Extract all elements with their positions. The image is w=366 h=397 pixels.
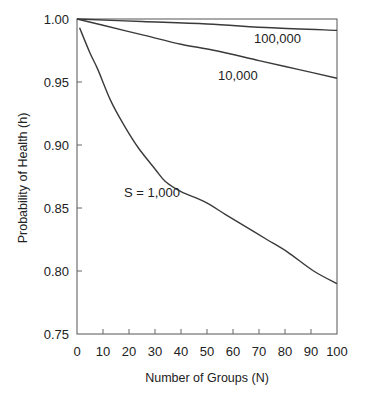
plot-border: [77, 19, 337, 334]
curve-series-0: [80, 28, 337, 284]
x-tick-label: 30: [148, 344, 162, 359]
y-tick-label: 1.00: [44, 12, 69, 27]
x-tick-label: 40: [174, 344, 188, 359]
x-tick-label: 60: [226, 344, 240, 359]
y-tick-label: 0.85: [44, 201, 69, 216]
y-tick-label: 0.90: [44, 138, 69, 153]
y-tick-label: 0.75: [44, 327, 69, 342]
x-tick-label: 100: [326, 344, 348, 359]
y-tick-label: 0.80: [44, 264, 69, 279]
x-tick-label: 10: [96, 344, 110, 359]
y-axis-title: Probability of Health (h): [16, 113, 30, 244]
series-labels: S = 1,00010,000100,000: [124, 31, 301, 200]
x-tick-label: 70: [252, 344, 266, 359]
series-label: 100,000: [254, 31, 301, 46]
x-axis-title: Number of Groups (N): [145, 371, 269, 385]
x-tick-label: 20: [122, 344, 136, 359]
y-tick-label: 0.95: [44, 75, 69, 90]
chart: 0.750.800.850.900.951.00 010203040506070…: [0, 0, 366, 397]
x-tick-label: 90: [304, 344, 318, 359]
y-axis-ticks: 0.750.800.850.900.951.00: [44, 12, 82, 342]
series-label: 10,000: [218, 68, 258, 83]
x-tick-label: 80: [278, 344, 292, 359]
plot-frame: [77, 19, 337, 334]
x-tick-label: 50: [200, 344, 214, 359]
curve-series-1: [77, 19, 337, 78]
x-tick-label: 0: [73, 344, 80, 359]
series-label: S = 1,000: [124, 185, 180, 200]
curves: [77, 19, 337, 284]
